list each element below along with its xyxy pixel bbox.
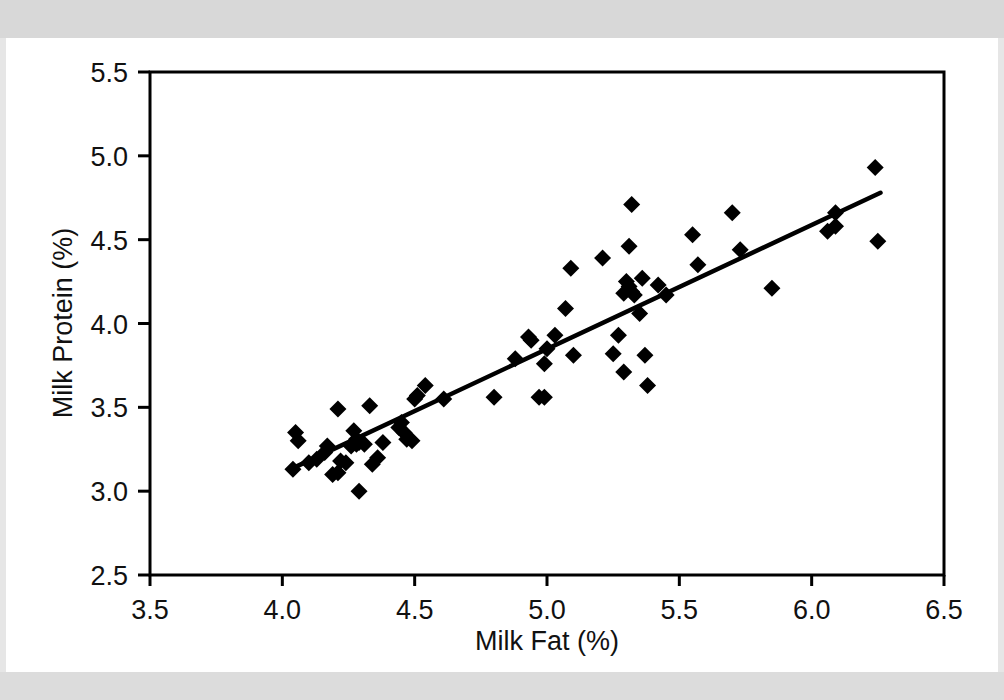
y-axis-tick-labels: 2.53.03.54.04.55.05.5	[90, 58, 128, 591]
x-tick-label: 6.5	[925, 595, 963, 625]
x-tick-label: 4.0	[264, 595, 302, 625]
x-axis-ticks	[150, 575, 944, 586]
y-tick-label: 5.0	[90, 142, 128, 172]
x-tick-label: 4.5	[396, 595, 434, 625]
x-tick-label: 5.0	[528, 595, 566, 625]
y-tick-label: 3.5	[90, 393, 128, 423]
y-axis-ticks	[138, 72, 150, 575]
y-tick-label: 2.5	[90, 561, 128, 591]
x-axis-title: Milk Fat (%)	[475, 626, 619, 656]
y-tick-label: 4.5	[90, 226, 128, 256]
chart-svg: 3.54.04.55.05.56.06.5 2.53.03.54.04.55.0…	[0, 0, 1004, 700]
scanned-page: 3.54.04.55.05.56.06.5 2.53.03.54.04.55.0…	[0, 0, 1004, 700]
plot-frame	[150, 72, 944, 575]
y-tick-label: 4.0	[90, 310, 128, 340]
scatter-chart: 3.54.04.55.05.56.06.5 2.53.03.54.04.55.0…	[0, 0, 1004, 700]
x-tick-label: 5.5	[661, 595, 699, 625]
x-axis-tick-labels: 3.54.04.55.05.56.06.5	[131, 595, 963, 625]
y-axis-title: Milk Protein (%)	[48, 228, 78, 419]
y-tick-label: 3.0	[90, 477, 128, 507]
x-tick-label: 6.0	[793, 595, 831, 625]
y-tick-label: 5.5	[90, 58, 128, 88]
x-tick-label: 3.5	[131, 595, 169, 625]
